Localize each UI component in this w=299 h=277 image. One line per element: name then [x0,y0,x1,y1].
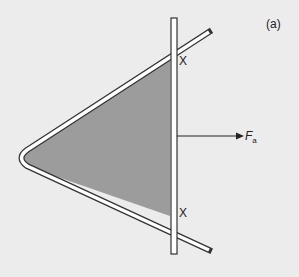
crossing-label-bottom: X [179,206,187,220]
crossing-label-top: X [179,54,187,68]
force-subscript: a [252,136,256,145]
force-label: Fa [245,129,257,145]
panel-label: (a) [266,17,281,31]
sliding-bar [171,18,177,254]
force-arrow-head [236,133,244,140]
